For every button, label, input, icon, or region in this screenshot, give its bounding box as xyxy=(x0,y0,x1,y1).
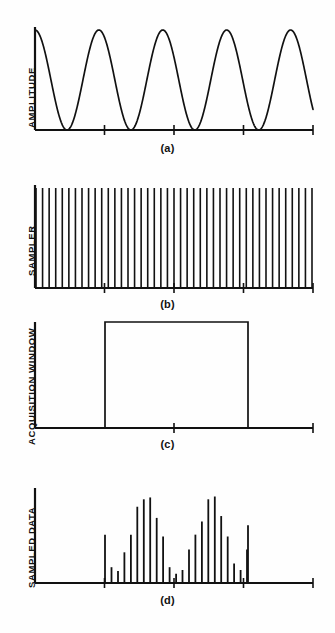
sine-waveform xyxy=(35,30,313,130)
panel-a: AMPLITUDE (a) xyxy=(0,10,335,160)
impulse-train xyxy=(36,188,312,288)
panel-d: SAMPLED DATA (d) xyxy=(0,470,335,633)
panel-a-ylabel: AMPLITUDE xyxy=(26,67,37,128)
panel-c-ylabel: ACQUISITION WINDOW xyxy=(26,328,37,445)
panel-c-caption: (c) xyxy=(0,438,335,450)
signal-sampling-figure: AMPLITUDE (a) SAMPLER xyxy=(0,0,335,633)
sampled-data-stems xyxy=(105,497,248,583)
panel-c-axes xyxy=(35,322,313,433)
panel-b-caption: (b) xyxy=(0,298,335,310)
panel-a-axes xyxy=(35,27,313,135)
panel-d-plot xyxy=(0,470,335,598)
panel-d-ylabel: SAMPLED DATA xyxy=(26,507,37,588)
panel-b: SAMPLER (b) xyxy=(0,168,335,318)
panel-d-caption: (d) xyxy=(0,594,335,606)
panel-b-plot xyxy=(0,168,335,293)
panel-a-plot xyxy=(0,10,335,135)
panel-a-caption: (a) xyxy=(0,142,335,154)
panel-b-ylabel: SAMPLER xyxy=(26,225,37,276)
panel-d-axes xyxy=(35,488,313,588)
acquisition-window-shape xyxy=(105,322,248,428)
panel-c-plot xyxy=(0,310,335,438)
panel-c: ACQUISITION WINDOW (c) xyxy=(0,310,335,465)
